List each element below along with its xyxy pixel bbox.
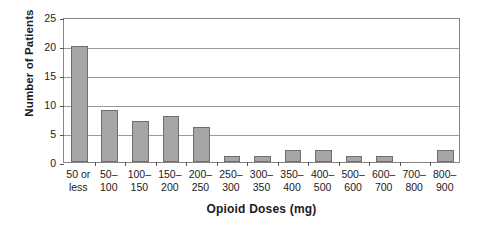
x-tick-label-line: 500: [307, 181, 338, 194]
x-tick-label-line: 700–: [399, 168, 430, 181]
y-tick-mark: [60, 135, 64, 136]
bar: [101, 110, 118, 162]
x-tick-mark: [247, 162, 248, 166]
y-tick-label: 10: [30, 100, 56, 111]
x-tick-label-line: 250: [185, 181, 216, 194]
x-tick-label-line: 100–: [124, 168, 155, 181]
x-tick-mark: [430, 162, 431, 166]
bar: [71, 46, 88, 162]
x-tick-label-line: 900: [429, 181, 460, 194]
x-tick-mark: [186, 162, 187, 166]
x-tick-label-line: 800–: [429, 168, 460, 181]
y-tick-label: 5: [30, 129, 56, 140]
x-tick-label: 150–200: [155, 168, 186, 194]
x-tick-label-line: 50–: [94, 168, 125, 181]
bar: [132, 121, 149, 162]
bar: [376, 156, 393, 162]
x-tick-mark: [125, 162, 126, 166]
bar: [163, 116, 180, 162]
y-tick-mark: [60, 106, 64, 107]
bar: [437, 150, 454, 162]
bars-group: [64, 19, 459, 162]
x-tick-label-line: 300: [216, 181, 247, 194]
x-tick-label: 50 orless: [63, 168, 94, 194]
x-tick-mark: [308, 162, 309, 166]
y-tick-mark: [60, 77, 64, 78]
x-tick-label-line: less: [63, 181, 94, 194]
x-tick-label-line: 500–: [338, 168, 369, 181]
y-tick-mark: [60, 19, 64, 20]
x-tick-label-line: 600–: [368, 168, 399, 181]
bar: [315, 150, 332, 162]
x-tick-mark: [278, 162, 279, 166]
x-tick-label-line: 400–: [307, 168, 338, 181]
x-tick-label: 250–300: [216, 168, 247, 194]
x-tick-label-line: 350–: [277, 168, 308, 181]
x-tick-mark: [156, 162, 157, 166]
x-tick-label-line: 150: [124, 181, 155, 194]
x-tick-label-line: 700: [368, 181, 399, 194]
x-tick-label-line: 350: [246, 181, 277, 194]
y-tick-label: 0: [30, 158, 56, 169]
x-tick-label: 350–400: [277, 168, 308, 194]
x-tick-label: 600–700: [368, 168, 399, 194]
x-tick-label-line: 50 or: [63, 168, 94, 181]
bar-chart: Number of Patients 0510152025 50 orless5…: [0, 0, 478, 227]
y-tick-label: 15: [30, 71, 56, 82]
x-tick-label: 800–900: [429, 168, 460, 194]
x-tick-mark: [369, 162, 370, 166]
x-tick-label: 500–600: [338, 168, 369, 194]
x-tick-label: 50–100: [94, 168, 125, 194]
x-tick-label-line: 200: [155, 181, 186, 194]
x-tick-label-line: 100: [94, 181, 125, 194]
y-tick-mark: [60, 48, 64, 49]
x-tick-label-line: 200–: [185, 168, 216, 181]
x-tick-label: 300–350: [246, 168, 277, 194]
x-tick-mark: [95, 162, 96, 166]
x-tick-mark: [400, 162, 401, 166]
y-tick-label: 25: [30, 13, 56, 24]
bar: [346, 156, 363, 162]
x-tick-label-line: 400: [277, 181, 308, 194]
bar: [224, 156, 241, 162]
x-tick-label: 700–800: [399, 168, 430, 194]
x-tick-label-line: 300–: [246, 168, 277, 181]
x-axis-tick-labels: 50 orless50–100100–150150–200200–250250–…: [63, 168, 460, 202]
x-tick-label-line: 800: [399, 181, 430, 194]
x-tick-label-line: 150–: [155, 168, 186, 181]
bar: [254, 156, 271, 162]
x-tick-label: 200–250: [185, 168, 216, 194]
x-tick-mark: [339, 162, 340, 166]
x-tick-label: 400–500: [307, 168, 338, 194]
y-tick-mark: [60, 164, 64, 165]
x-tick-label: 100–150: [124, 168, 155, 194]
x-tick-label-line: 600: [338, 181, 369, 194]
bar: [285, 150, 302, 162]
y-tick-label: 20: [30, 42, 56, 53]
x-tick-label-line: 250–: [216, 168, 247, 181]
plot-area: [63, 18, 460, 163]
y-axis-tick-labels: 0510152025: [30, 0, 56, 227]
x-axis-title: Opioid Doses (mg): [63, 202, 460, 216]
bar: [193, 127, 210, 162]
x-tick-mark: [217, 162, 218, 166]
